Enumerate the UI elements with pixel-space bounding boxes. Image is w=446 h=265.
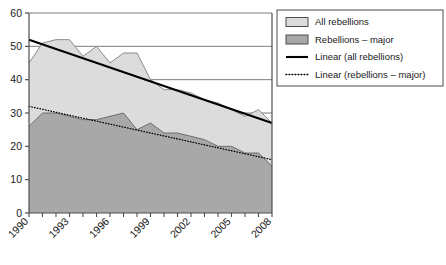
legend-label-2: Rebellions – major (315, 34, 394, 45)
chart-canvas: 1990199319961999200220052008010203040506… (0, 0, 446, 265)
legend-swatch-2 (286, 35, 308, 44)
x-tick-label-2008: 2008 (248, 215, 273, 240)
x-tick-label-2002: 2002 (167, 215, 192, 240)
y-tick-label-60: 60 (10, 7, 22, 19)
legend: All rebellionsRebellions – majorLinear (… (277, 10, 443, 86)
x-tick-label-2005: 2005 (208, 215, 233, 240)
axis-labels-group: 1990199319961999200220052008 (5, 215, 273, 240)
legend-label-3: Linear (all rebellions) (315, 51, 403, 62)
y-tick-label-50: 50 (10, 40, 22, 52)
y-tick-label-40: 40 (10, 73, 22, 85)
x-tick-label-1999: 1999 (127, 215, 152, 240)
x-tick-label-1996: 1996 (86, 215, 111, 240)
y-tick-label-20: 20 (10, 140, 22, 152)
legend-item-1: All rebellions (286, 16, 369, 27)
y-tick-label-30: 30 (10, 107, 22, 119)
legend-label-1: All rebellions (315, 16, 369, 27)
rebellions-area-chart: 1990199319961999200220052008010203040506… (0, 0, 446, 265)
y-tick-label-0: 0 (16, 207, 22, 219)
legend-swatch-1 (286, 18, 308, 27)
legend-label-4: Linear (rebellions – major) (315, 69, 425, 80)
y-tick-label-10: 10 (10, 173, 22, 185)
legend-item-2: Rebellions – major (286, 34, 394, 45)
x-tick-label-1993: 1993 (46, 215, 71, 240)
